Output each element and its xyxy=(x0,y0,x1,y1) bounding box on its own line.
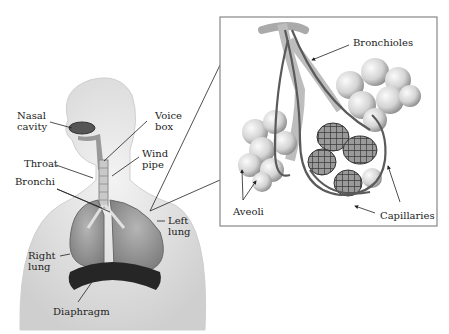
label-voice-box: Voice box xyxy=(155,110,182,132)
label-throat: Throat xyxy=(24,158,58,169)
label-capillaries: Capillaries xyxy=(380,210,435,221)
label-nasal-cavity: Nasal cavity xyxy=(17,110,47,132)
label-diaphragm: Diaphragm xyxy=(53,306,110,317)
diagram-artwork xyxy=(0,0,449,334)
label-right-lung: Right lung xyxy=(28,250,56,272)
label-aveoli: Aveoli xyxy=(233,206,264,217)
label-wind-pipe: Wind pipe xyxy=(142,148,168,170)
label-bronchi: Bronchi xyxy=(15,176,55,187)
label-bronchioles: Bronchioles xyxy=(353,37,413,48)
label-left-lung: Left lung xyxy=(168,215,190,237)
respiratory-diagram: Nasal cavity Voice box Throat Wind pipe … xyxy=(0,0,449,334)
